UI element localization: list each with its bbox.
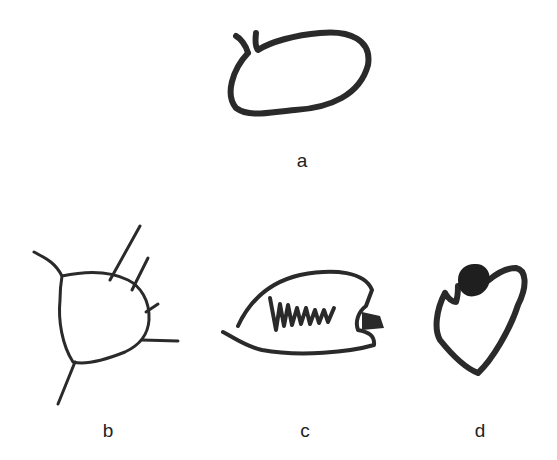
panel-label-a: a — [297, 150, 308, 172]
sketch-b — [34, 226, 178, 404]
panel-label-c: c — [300, 420, 310, 442]
sketch-canvas — [0, 0, 557, 460]
sketch-a — [231, 32, 369, 113]
panel-label-b: b — [103, 420, 114, 442]
sketch-figure: a b c d — [0, 0, 557, 460]
sketch-d — [437, 264, 525, 373]
sketch-c — [223, 272, 384, 354]
panel-label-d: d — [475, 420, 486, 442]
